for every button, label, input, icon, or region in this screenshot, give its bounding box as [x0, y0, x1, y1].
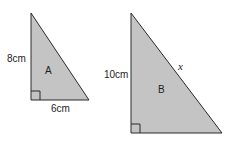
triangle-b	[131, 13, 222, 133]
similar-triangles-diagram: 8cm A 6cm 10cm B x	[0, 0, 232, 142]
triangle-a-name-label: A	[45, 66, 52, 76]
triangle-a	[31, 13, 89, 100]
triangle-a-horizontal-side-label: 6cm	[51, 104, 70, 114]
triangle-b-vertical-side-label: 10cm	[104, 70, 128, 80]
triangle-b-hypotenuse-label: x	[178, 61, 183, 72]
triangle-a-vertical-side-label: 8cm	[7, 54, 26, 64]
triangle-b-name-label: B	[158, 85, 165, 95]
